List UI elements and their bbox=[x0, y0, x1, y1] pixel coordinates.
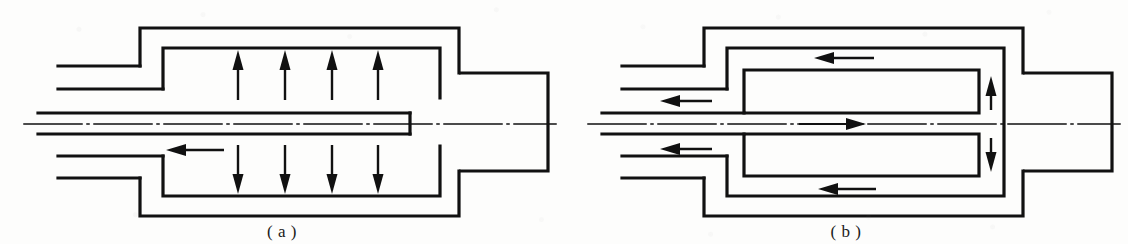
down-arrow-icon bbox=[233, 145, 244, 194]
left-arrow-icon bbox=[660, 143, 712, 155]
left-arrow-icon bbox=[814, 52, 874, 64]
panel-a-caption: ( a ) bbox=[0, 222, 564, 242]
up-arrow-icon bbox=[233, 50, 244, 100]
down-arrow-group-a bbox=[233, 145, 384, 194]
right-arrow-icon bbox=[799, 118, 866, 130]
panel-b-diagram bbox=[564, 0, 1128, 244]
left-arrow-icon bbox=[818, 183, 876, 195]
lower-baffle-insert-b bbox=[744, 134, 979, 176]
down-arrow-icon bbox=[373, 145, 384, 194]
down-arrow-icon bbox=[327, 145, 338, 194]
panel-a-diagram bbox=[0, 0, 564, 244]
up-arrow-icon bbox=[327, 50, 338, 100]
up-arrow-icon bbox=[373, 50, 384, 100]
left-arrow-icon bbox=[660, 95, 712, 107]
down-arrow-icon bbox=[280, 145, 291, 194]
up-arrow-icon bbox=[280, 50, 291, 100]
figure-container: ( a ) ( b ) bbox=[0, 0, 1128, 244]
panel-b-caption: ( b ) bbox=[564, 222, 1128, 242]
left-arrow-icon bbox=[166, 144, 224, 156]
down-arrow-icon bbox=[986, 138, 997, 172]
upper-baffle-insert-b bbox=[744, 70, 979, 113]
end-stub-b bbox=[1023, 73, 1112, 171]
up-arrow-group-a bbox=[233, 50, 384, 100]
inner-shell-a bbox=[163, 48, 440, 196]
up-arrow-icon bbox=[986, 76, 997, 110]
end-stub-a bbox=[459, 73, 548, 171]
